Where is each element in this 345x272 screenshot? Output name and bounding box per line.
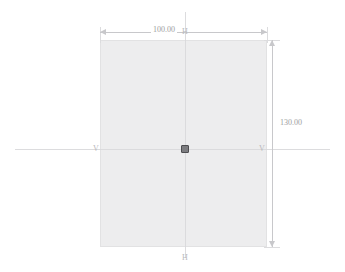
cad-drawing-canvas[interactable]: 100.00 130.00 H H V V (0, 0, 345, 272)
vertical-centerline[interactable] (185, 12, 186, 258)
axis-label-v-left: V (93, 145, 99, 153)
origin-point-marker[interactable] (181, 145, 189, 153)
width-dimension-value[interactable]: 100.00 (151, 26, 177, 34)
height-arrow-bottom-icon (269, 241, 275, 247)
height-extension-line-bottom (264, 247, 280, 248)
width-arrow-left-icon (100, 29, 106, 35)
axis-label-h-top: H (182, 28, 188, 36)
axis-label-h-bottom: H (182, 254, 188, 262)
part-rectangle[interactable] (100, 40, 267, 247)
height-arrow-top-icon (269, 40, 275, 46)
horizontal-centerline[interactable] (15, 149, 330, 150)
width-arrow-right-icon (261, 29, 267, 35)
height-dimension-line[interactable] (272, 40, 273, 247)
height-dimension-value[interactable]: 130.00 (278, 118, 304, 128)
axis-label-v-right: V (259, 145, 265, 153)
